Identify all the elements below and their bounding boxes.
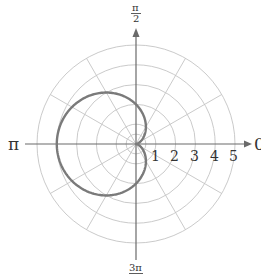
radial-tick-2: 2	[170, 148, 179, 164]
label-pi: π	[8, 134, 19, 154]
radial-tick-4: 4	[210, 148, 219, 164]
arrow-up-icon	[133, 28, 140, 37]
arrow-right-icon	[244, 141, 252, 148]
radial-tick-3: 3	[190, 148, 199, 164]
polar-plot: 0 π π 2 3π 1 2 3 4 5	[0, 0, 261, 274]
label-half-pi-numerator: π	[132, 2, 139, 13]
label-half-pi-denominator: 2	[133, 13, 139, 24]
grid-spoke	[87, 144, 137, 230]
grid-spoke	[87, 58, 137, 144]
radial-tick-5: 5	[229, 148, 238, 164]
label-three-half-pi-numerator: 3π	[129, 262, 142, 273]
grid-spoke	[136, 58, 186, 144]
grid-spoke	[136, 95, 222, 145]
radial-tick-1: 1	[151, 148, 160, 164]
label-zero: 0	[254, 134, 261, 154]
